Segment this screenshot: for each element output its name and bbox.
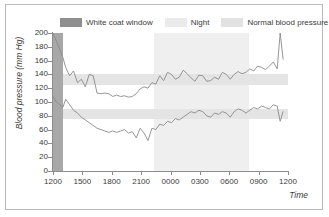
x-tick-label-8: 1200 [268, 177, 308, 186]
x-tick-1 [82, 171, 83, 175]
plot-area [53, 33, 288, 171]
y-tick-label-40: 40 [8, 139, 48, 147]
x-tick-0 [53, 171, 54, 175]
x-tick-6 [229, 171, 230, 175]
x-tick-3 [141, 171, 142, 175]
x-tick-4 [171, 171, 172, 175]
legend-swatch-normal-blood-pressure [221, 18, 243, 27]
y-tick-160 [48, 61, 52, 62]
y-tick-label-100: 100 [8, 98, 48, 106]
y-tick-label-20: 20 [8, 153, 48, 161]
y-tick-200 [48, 33, 52, 34]
series-line-diastolic [53, 96, 283, 140]
x-tick-7 [259, 171, 260, 175]
y-tick-label-80: 80 [8, 112, 48, 120]
y-tick-100 [48, 102, 52, 103]
y-tick-120 [48, 88, 52, 89]
y-tick-label-0: 0 [8, 167, 48, 175]
y-tick-40 [48, 143, 52, 144]
legend-item-night: Night [165, 18, 210, 27]
x-tick-8 [288, 171, 289, 175]
y-tick-label-180: 180 [8, 43, 48, 51]
y-tick-60 [48, 130, 52, 131]
legend-swatch-night [165, 18, 187, 27]
legend-label-white-coat-window: White coat window [86, 18, 153, 27]
chart-legend: White coat window Night Normal blood pre… [60, 16, 322, 28]
y-tick-140 [48, 74, 52, 75]
legend-label-normal-blood-pressure: Normal blood pressure [247, 18, 328, 27]
y-tick-label-200: 200 [8, 29, 48, 37]
y-tick-label-140: 140 [8, 70, 48, 78]
y-tick-label-160: 160 [8, 57, 48, 65]
data-lines [53, 33, 288, 171]
series-line-systolic [53, 33, 283, 97]
legend-item-normal-blood-pressure: Normal blood pressure [221, 18, 328, 27]
x-axis-title: Time [258, 190, 308, 200]
y-tick-80 [48, 116, 52, 117]
y-tick-label-60: 60 [8, 126, 48, 134]
chart-figure: White coat window Night Normal blood pre… [0, 0, 329, 217]
y-tick-label-120: 120 [8, 84, 48, 92]
legend-swatch-white-coat-window [60, 18, 82, 27]
x-tick-2 [112, 171, 113, 175]
legend-item-white-coat-window: White coat window [60, 18, 153, 27]
legend-label-night: Night [191, 18, 210, 27]
x-tick-5 [200, 171, 201, 175]
y-tick-0 [48, 171, 52, 172]
y-tick-20 [48, 157, 52, 158]
y-tick-180 [48, 47, 52, 48]
